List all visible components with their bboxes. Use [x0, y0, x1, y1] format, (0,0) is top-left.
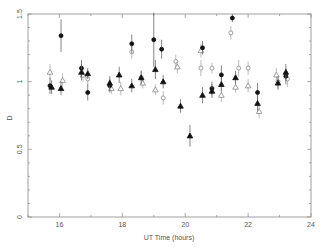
data-point-open-circle — [229, 26, 233, 40]
x-tick-label: 20 — [181, 221, 189, 228]
data-point-filled-circle — [152, 13, 156, 67]
data-point-filled-triangle — [219, 78, 225, 92]
data-point-open-triangle — [153, 84, 159, 95]
y-axis-label: D — [6, 115, 13, 120]
data-point-open-circle — [246, 61, 250, 75]
x-tick-label: 16 — [56, 221, 64, 228]
data-point-filled-triangle — [233, 71, 239, 85]
plot-frame — [28, 14, 311, 217]
y-tick-label: 0 — [16, 215, 23, 219]
scatter-chart: 161820222400.511.5 UT Time (hours) D — [0, 0, 327, 250]
data-point-open-triangle — [245, 79, 251, 93]
data-point-open-circle — [237, 60, 241, 76]
x-tick-label: 22 — [244, 221, 252, 228]
data-point-filled-triangle — [160, 75, 166, 89]
x-tick-label: 18 — [118, 221, 126, 228]
x-tick-label: 24 — [307, 221, 315, 228]
data-point-filled-triangle — [200, 87, 206, 103]
data-point-filled-triangle — [129, 79, 135, 93]
y-tick-label: 0.5 — [16, 144, 23, 154]
y-tick-label: 1.5 — [16, 9, 23, 19]
data-point-open-triangle — [118, 82, 124, 96]
data-point-filled-circle — [59, 19, 63, 51]
data-point-open-circle — [210, 63, 214, 74]
x-axis-label: UT Time (hours) — [144, 234, 194, 242]
data-point-open-circle — [199, 60, 203, 76]
data-point-filled-circle — [86, 84, 90, 100]
data-point-filled-triangle — [116, 67, 122, 83]
data-point-filled-triangle — [209, 84, 215, 98]
y-tick-label: 1 — [16, 80, 23, 84]
data-point-open-circle — [161, 91, 165, 105]
data-points — [47, 13, 289, 147]
data-point-filled-triangle — [178, 99, 184, 113]
data-point-filled-circle — [230, 14, 234, 22]
data-point-filled-triangle — [187, 125, 193, 147]
data-point-filled-circle — [160, 40, 164, 59]
